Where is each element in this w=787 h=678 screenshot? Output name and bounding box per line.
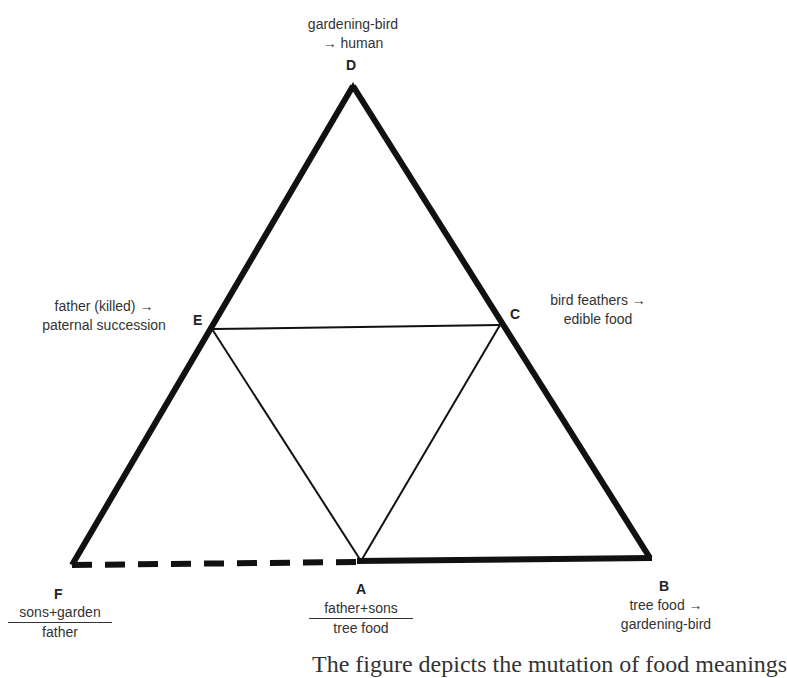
edge-C-A (361, 325, 500, 561)
edge-E-A (212, 329, 361, 561)
caption-fragment: The figure depicts the mutation of food … (312, 651, 787, 678)
label-B-line2: gardening-bird (605, 615, 727, 634)
vertex-F: F (54, 586, 63, 602)
label-D: gardening-bird → human (283, 15, 423, 53)
edge-F-A-dashed (72, 562, 357, 565)
label-A-numerator: father+sons (309, 599, 413, 619)
label-E-line1: father (killed) → (28, 297, 180, 316)
edge-A-B (357, 558, 652, 561)
label-C-line2: edible food (538, 310, 658, 329)
label-D-line2: → human (283, 34, 423, 53)
vertex-D: D (346, 57, 356, 73)
label-C-line1: bird feathers → (538, 291, 658, 310)
label-A-denominator: tree food (309, 619, 413, 638)
label-F-denominator: father (8, 623, 112, 642)
label-F-numerator: sons+garden (8, 603, 112, 623)
edge-E-C (212, 325, 500, 329)
label-D-line1: gardening-bird (283, 15, 423, 34)
label-C: bird feathers → edible food (538, 291, 658, 329)
label-A-fraction: father+sons tree food (309, 599, 413, 638)
label-E: father (killed) → paternal succession (28, 297, 180, 335)
label-E-line2: paternal succession (28, 316, 180, 335)
vertex-B: B (659, 578, 669, 594)
label-F-fraction: sons+garden father (8, 603, 112, 642)
vertex-A: A (356, 581, 366, 597)
vertex-E: E (193, 312, 202, 328)
vertex-C: C (510, 306, 520, 322)
label-B-line1: tree food → (605, 596, 727, 615)
label-B: tree food → gardening-bird (605, 596, 727, 634)
